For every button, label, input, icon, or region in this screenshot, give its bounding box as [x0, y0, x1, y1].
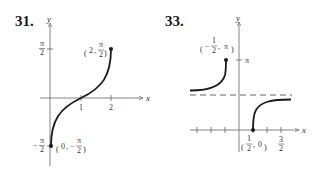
svg-text:): )	[231, 45, 234, 54]
svg-text:(: (	[84, 49, 87, 58]
svg-text:3: 3	[279, 135, 283, 144]
x-tick-label-3-2: 3 2	[278, 135, 284, 153]
svg-text:2: 2	[212, 46, 216, 55]
svg-text:): )	[264, 143, 267, 152]
svg-text:2: 2	[77, 146, 81, 155]
x-tick-label-2: 2	[109, 103, 113, 112]
y-tick-label-pi-half-den: 2	[40, 48, 44, 57]
svg-text:−: −	[70, 142, 75, 151]
svg-text:2: 2	[279, 144, 283, 153]
y-axis-label: y	[235, 13, 240, 23]
svg-text:,: ,	[218, 42, 220, 51]
y-tick-label-neg-pi-half-den: 2	[40, 145, 44, 154]
svg-text:0: 0	[258, 140, 262, 149]
svg-text:,: ,	[253, 140, 255, 149]
graph-33: x y 3 2 π ( − 1 2 ,	[190, 13, 306, 153]
y-tick-label-pi-half-num: π	[40, 39, 44, 48]
point-label-2-pi-half: ( 2 , π 2 )	[84, 40, 107, 59]
x-tick-label-1: 1	[79, 103, 83, 112]
svg-text:(: (	[56, 145, 59, 154]
svg-text:2: 2	[89, 46, 93, 55]
x-axis-label: x	[301, 125, 306, 135]
curve-31	[51, 49, 111, 146]
y-tick-label-neg-pi-half-num: π	[40, 136, 44, 145]
endpoint-top	[109, 47, 113, 51]
curve-33-left-branch	[190, 60, 226, 91]
y-axis-label: y	[46, 14, 51, 24]
svg-text:π: π	[77, 136, 81, 145]
x-axis-label: x	[145, 93, 150, 103]
svg-text:2: 2	[99, 50, 103, 59]
y-tick-label-pi: π	[245, 56, 249, 65]
svg-text:π: π	[99, 40, 103, 49]
svg-text:0: 0	[61, 142, 65, 151]
svg-text:1: 1	[212, 36, 216, 45]
point-label-neg-half-pi: ( − 1 2 , π )	[200, 36, 234, 55]
point-label-half-0: ( 1 2 , 0 )	[241, 134, 267, 153]
svg-text:): )	[104, 49, 107, 58]
y-tick-label-neg-sign: −	[33, 141, 38, 150]
endpoint-bottom	[49, 144, 53, 148]
point-label-0-neg-pi-half: ( 0 , − π 2 )	[56, 136, 86, 155]
endpoint-left-branch	[224, 58, 228, 62]
svg-text:(: (	[200, 45, 203, 54]
svg-text:π: π	[224, 42, 228, 51]
svg-text:,: ,	[94, 46, 96, 55]
svg-text:): )	[83, 145, 86, 154]
endpoint-right-branch	[251, 128, 255, 132]
curve-33-right-branch	[253, 100, 291, 131]
graph-31: x y 1 2 π 2 − π 2 ( 2 , π 2 )	[33, 14, 150, 166]
svg-text:2: 2	[247, 144, 251, 153]
svg-text:−: −	[205, 42, 210, 51]
svg-text:1: 1	[247, 134, 251, 143]
svg-text:,: ,	[66, 142, 68, 151]
svg-text:(: (	[241, 143, 244, 152]
figures: x y 1 2 π 2 − π 2 ( 2 , π 2 )	[0, 0, 318, 170]
